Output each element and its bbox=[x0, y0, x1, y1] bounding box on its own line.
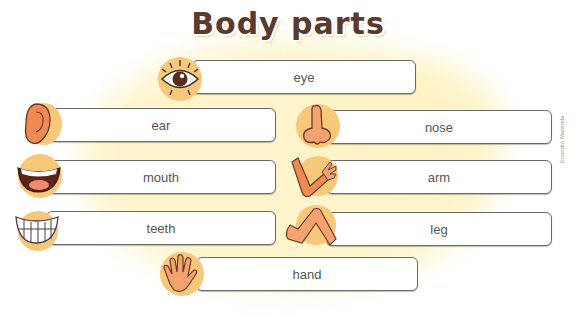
label-text: leg bbox=[430, 222, 447, 237]
label-box-leg[interactable]: leg bbox=[326, 212, 552, 246]
label-text: mouth bbox=[143, 170, 179, 185]
ear-icon bbox=[14, 100, 62, 148]
label-box-teeth[interactable]: teeth bbox=[46, 211, 276, 245]
page-title: Body parts bbox=[0, 6, 576, 41]
eye-icon bbox=[156, 54, 204, 102]
label-text: nose bbox=[425, 120, 453, 135]
label-box-hand[interactable]: hand bbox=[196, 257, 418, 291]
teeth-icon bbox=[12, 203, 60, 251]
arm-icon bbox=[290, 152, 338, 200]
label-text: teeth bbox=[147, 221, 176, 236]
leg-icon bbox=[282, 203, 330, 251]
label-text: hand bbox=[293, 267, 322, 282]
mouth-icon bbox=[14, 152, 62, 200]
hand-icon bbox=[158, 250, 206, 298]
label-text: ear bbox=[152, 118, 171, 133]
label-text: eye bbox=[294, 70, 315, 85]
nose-icon bbox=[294, 102, 342, 150]
label-box-mouth[interactable]: mouth bbox=[46, 160, 276, 194]
label-box-arm[interactable]: arm bbox=[326, 160, 552, 194]
label-box-nose[interactable]: nose bbox=[326, 110, 552, 144]
label-box-ear[interactable]: ear bbox=[46, 108, 276, 142]
illustrator-credit: Evandro Marenda bbox=[556, 100, 568, 166]
label-box-eye[interactable]: eye bbox=[192, 60, 416, 94]
label-text: arm bbox=[428, 170, 450, 185]
